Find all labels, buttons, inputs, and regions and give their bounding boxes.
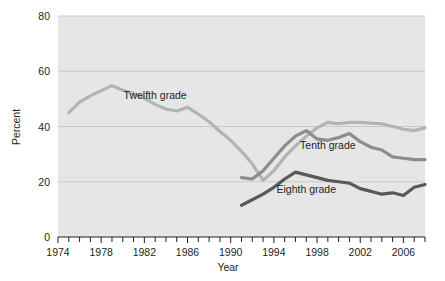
line-chart: 020406080 197419781982198619901994199820… — [0, 0, 445, 281]
series-label: Tenth grade — [300, 139, 356, 151]
x-tick-label: 1978 — [89, 246, 113, 258]
x-tick-label: 1994 — [262, 246, 286, 258]
y-axis-tick-labels: 020406080 — [38, 10, 50, 243]
x-tick-label: 1998 — [305, 246, 329, 258]
y-tick-label: 80 — [38, 10, 50, 22]
y-axis-title: Percent — [10, 109, 22, 145]
x-axis-tick-marks — [58, 237, 425, 243]
x-tick-label: 2002 — [349, 246, 373, 258]
x-axis-title: Year — [217, 261, 239, 273]
x-tick-label: 1982 — [133, 246, 157, 258]
series-label: Twelfth grade — [124, 89, 187, 101]
y-tick-label: 20 — [38, 176, 50, 188]
chart-figure: 020406080 197419781982198619901994199820… — [0, 0, 445, 281]
y-tick-label: 0 — [44, 231, 50, 243]
x-tick-label: 1986 — [176, 246, 200, 258]
x-tick-label: 2006 — [392, 246, 416, 258]
y-tick-label: 60 — [38, 65, 50, 77]
series-label: Eighth grade — [276, 183, 336, 195]
x-tick-label: 1974 — [46, 246, 70, 258]
x-tick-label: 1990 — [219, 246, 243, 258]
x-axis-tick-labels: 197419781982198619901994199820022006 — [46, 246, 415, 258]
y-tick-label: 40 — [38, 121, 50, 133]
